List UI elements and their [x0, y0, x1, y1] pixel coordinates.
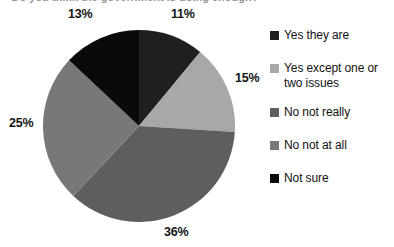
legend-item-no-not-at-all[interactable]: No not at all — [270, 138, 394, 153]
legend-item-label: No not at all — [284, 138, 347, 153]
pie-plot-area: 13% 11% 15% 36% 25% — [0, 0, 268, 247]
pie-chart-figure: Do you think the government is doing eno… — [0, 0, 394, 247]
pie-value-label-no-not-really: 36% — [164, 225, 188, 239]
legend-swatch-icon — [270, 141, 279, 150]
legend-swatch-icon — [270, 31, 279, 40]
chart-legend: Yes they areYes except one or two issues… — [270, 28, 394, 204]
pie-value-label-yes-they-are: 11% — [171, 7, 195, 21]
pie-slice-group — [43, 30, 235, 222]
legend-item-not-sure[interactable]: Not sure — [270, 171, 394, 186]
legend-item-yes-they-are[interactable]: Yes they are — [270, 28, 394, 43]
legend-swatch-icon — [270, 174, 279, 183]
legend-item-label: No not really — [284, 105, 350, 120]
legend-item-yes-except-one-or-two-issues[interactable]: Yes except one or two issues — [270, 61, 394, 91]
pie-value-label-yes-except-one-or-two-issues: 15% — [235, 71, 259, 85]
pie-value-label-no-not-at-all: 25% — [9, 116, 33, 130]
legend-swatch-icon — [270, 64, 279, 73]
pie-value-label-not-sure: 13% — [68, 7, 92, 21]
legend-item-no-not-really[interactable]: No not really — [270, 105, 394, 120]
pie-svg — [43, 30, 235, 222]
legend-item-label: Not sure — [284, 171, 329, 186]
legend-item-label: Yes except one or two issues — [284, 61, 394, 91]
legend-item-label: Yes they are — [284, 28, 349, 43]
legend-swatch-icon — [270, 108, 279, 117]
